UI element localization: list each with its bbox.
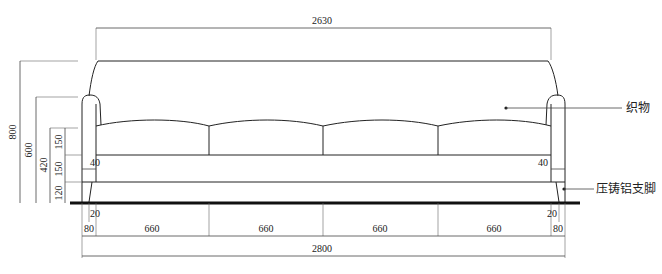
dim-40-right: 40 bbox=[538, 157, 548, 168]
dim-660-2: 660 bbox=[259, 223, 274, 234]
dimension-bottom: 20 20 80 660 660 660 660 80 2800 bbox=[82, 203, 565, 258]
dim-660-3: 660 bbox=[373, 223, 388, 234]
dim-80-left: 80 bbox=[84, 223, 94, 234]
dim-2800: 2800 bbox=[312, 243, 332, 254]
dim-150-base: 150 bbox=[53, 162, 64, 177]
callout-fabric: 织物 bbox=[504, 101, 650, 115]
dim-660-1: 660 bbox=[145, 223, 160, 234]
dim-20-right: 20 bbox=[547, 208, 557, 219]
dim-600: 600 bbox=[23, 143, 34, 158]
dim-150-cushion: 150 bbox=[53, 135, 64, 150]
dim-420: 420 bbox=[38, 158, 49, 173]
sofa-outline bbox=[82, 61, 565, 202]
dimension-heights: 800 600 420 150 150 120 bbox=[7, 61, 82, 203]
label-legs: 压铸铝支脚 bbox=[596, 181, 656, 196]
sofa-elevation-drawing: 2630 800 600 420 bbox=[0, 0, 662, 274]
callout-legs: 压铸铝支脚 bbox=[562, 181, 656, 196]
label-fabric: 织物 bbox=[626, 101, 650, 115]
dim-40-left: 40 bbox=[90, 157, 100, 168]
dim-80-right: 80 bbox=[553, 223, 563, 234]
dim-800: 800 bbox=[7, 125, 18, 140]
dim-2630: 2630 bbox=[312, 15, 332, 26]
dimension-arm-insets: 40 40 bbox=[82, 157, 565, 169]
dim-660-4: 660 bbox=[487, 223, 502, 234]
dim-120-leg: 120 bbox=[53, 186, 64, 201]
dim-20-left: 20 bbox=[90, 208, 100, 219]
dimension-top-width: 2630 bbox=[96, 15, 551, 60]
